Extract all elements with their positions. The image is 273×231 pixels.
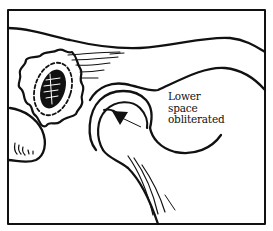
mastoid-outline (8, 108, 45, 162)
fibrous-lines (68, 52, 124, 78)
annotation-label: Lower space obliterated (168, 91, 224, 126)
frame-border (8, 10, 265, 224)
annotation-line-1: Lower (168, 91, 224, 103)
diagram-figure: Lower space obliterated (0, 0, 273, 231)
annotation-line-3: obliterated (168, 114, 224, 126)
upper-outline (8, 28, 265, 52)
joint-drawing (0, 0, 273, 231)
pointer-arrow-icon (112, 111, 141, 127)
mastoid-ticks (15, 143, 33, 155)
posterior-sweep (150, 128, 221, 153)
neck-hatch-4 (165, 195, 175, 210)
